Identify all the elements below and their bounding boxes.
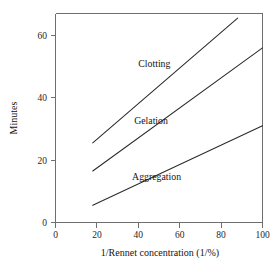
x-tick-label-100: 100	[255, 230, 270, 240]
line-chart: 0 20 40 60 0 20 40 60 80 100 1/Rennet co…	[0, 0, 279, 271]
series-labels: Clotting Gelation Aggregation	[132, 58, 181, 183]
y-axis-tick-labels: 0 20 40 60	[38, 31, 48, 228]
x-tick-label-20: 20	[92, 230, 102, 240]
series-line-aggregation	[93, 126, 263, 206]
y-tick-label-40: 40	[38, 93, 48, 103]
series-line-gelation	[93, 48, 263, 171]
series-label-clotting: Clotting	[138, 58, 170, 69]
chart-figure: 0 20 40 60 0 20 40 60 80 100 1/Rennet co…	[0, 0, 279, 271]
x-tick-label-40: 40	[134, 230, 144, 240]
y-tick-label-20: 20	[38, 156, 48, 166]
x-tick-label-60: 60	[175, 230, 185, 240]
series-label-aggregation: Aggregation	[132, 171, 181, 182]
y-axis-ticks	[51, 36, 56, 223]
x-tick-label-0: 0	[53, 230, 58, 240]
y-tick-label-60: 60	[38, 31, 48, 41]
x-tick-label-80: 80	[216, 230, 226, 240]
x-axis-ticks	[56, 223, 263, 228]
x-axis-tick-labels: 0 20 40 60 80 100	[53, 230, 270, 240]
y-tick-label-0: 0	[42, 218, 47, 228]
y-axis-title: Minutes	[8, 102, 19, 135]
series-label-gelation: Gelation	[134, 115, 168, 126]
x-axis-title: 1/Rennet concentration (1/%)	[101, 247, 219, 259]
